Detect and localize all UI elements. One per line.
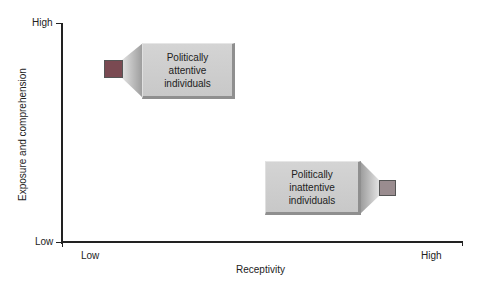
- marker-inattentive: [379, 180, 396, 196]
- callout-beam-attentive: [0, 0, 480, 287]
- callout-attentive-label: Politically attentive individuals: [153, 51, 223, 90]
- marker-attentive: [104, 60, 123, 78]
- callout-inattentive-label: Politically inattentive individuals: [277, 168, 347, 207]
- callout-attentive: Politically attentive individuals: [142, 43, 235, 99]
- callout-inattentive: Politically inattentive individuals: [265, 161, 361, 215]
